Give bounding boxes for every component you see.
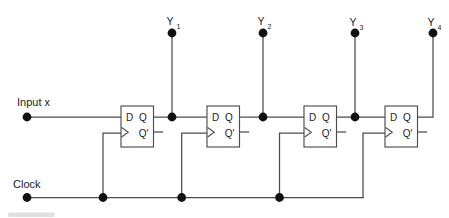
flipflop-1: D Q Q' bbox=[121, 106, 154, 147]
clock-branch-ff3 bbox=[280, 133, 305, 198]
clock-branch-ff2 bbox=[182, 133, 207, 198]
clock-junction-dot-3 bbox=[275, 193, 284, 202]
y3-junction-dot bbox=[351, 113, 360, 122]
flipflop-4-pin-qbar: Q' bbox=[403, 128, 413, 139]
circuit-figure: D Q Q' D Q Q' D Q Q' D Q Q' Y 1 Y 2 Y 3 … bbox=[0, 0, 449, 218]
flipflop-4-pin-q: Q bbox=[403, 112, 411, 123]
output-label-y1: Y bbox=[166, 15, 173, 27]
flipflop-2: D Q Q' bbox=[207, 106, 240, 147]
output-subscript-y3: 3 bbox=[360, 24, 364, 31]
clock-branch-ff4 bbox=[363, 133, 385, 198]
input-label: Input x bbox=[17, 96, 51, 108]
flipflop-1-pin-qbar: Q' bbox=[139, 128, 149, 139]
flipflop-3-pin-q: Q bbox=[322, 112, 330, 123]
output-subscript-y2: 2 bbox=[268, 23, 272, 30]
y2-terminal-dot bbox=[259, 29, 268, 38]
output-label-y2: Y bbox=[257, 15, 264, 27]
y3-terminal-dot bbox=[351, 29, 360, 38]
flipflop-2-pin-qbar: Q' bbox=[225, 128, 235, 139]
y4-terminal-dot bbox=[429, 29, 438, 38]
flipflop-3-pin-qbar: Q' bbox=[322, 128, 332, 139]
cropped-caption-fragment bbox=[8, 213, 55, 218]
clock-junction-dot-1 bbox=[99, 193, 108, 202]
clock-label: Clock bbox=[13, 178, 41, 190]
flipflop-3: D Q Q' bbox=[304, 106, 337, 147]
flipflop-4-pin-d: D bbox=[390, 112, 397, 123]
flipflop-2-pin-d: D bbox=[212, 112, 219, 123]
clock-terminal-dot bbox=[23, 193, 32, 202]
flipflop-1-pin-d: D bbox=[126, 112, 133, 123]
y2-junction-dot bbox=[259, 113, 268, 122]
shift-register-diagram: D Q Q' D Q Q' D Q Q' D Q Q' Y 1 Y 2 Y 3 … bbox=[0, 0, 449, 218]
input-terminal-dot bbox=[23, 113, 32, 122]
flipflop-1-pin-q: Q bbox=[139, 112, 147, 123]
y1-junction-dot bbox=[168, 113, 177, 122]
y1-terminal-dot bbox=[168, 29, 177, 38]
output-label-y3: Y bbox=[349, 16, 356, 28]
clock-junction-dot-2 bbox=[177, 193, 186, 202]
flipflop-4: D Q Q' bbox=[385, 106, 418, 147]
output-labels: Y 1 Y 2 Y 3 Y 4 bbox=[166, 15, 441, 31]
output-subscript-y4: 4 bbox=[438, 24, 442, 31]
output-label-y4: Y bbox=[427, 16, 434, 28]
flipflop-3-pin-d: D bbox=[309, 112, 316, 123]
output-subscript-y1: 1 bbox=[177, 23, 181, 30]
flipflop-2-pin-q: Q bbox=[225, 112, 233, 123]
wire-ff4q-y4 bbox=[418, 33, 434, 117]
clock-branch-ff1 bbox=[103, 133, 121, 198]
